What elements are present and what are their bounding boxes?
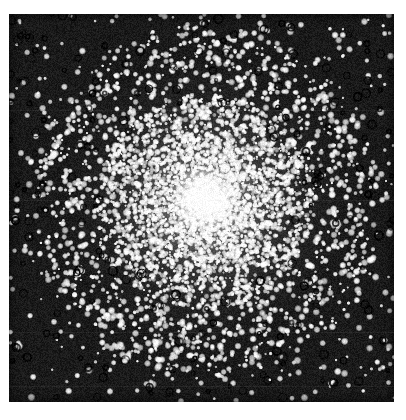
star-cluster-image (9, 14, 394, 402)
caption-area (0, 402, 406, 420)
screenshot-root (0, 0, 406, 420)
photographic-plate (9, 14, 394, 402)
